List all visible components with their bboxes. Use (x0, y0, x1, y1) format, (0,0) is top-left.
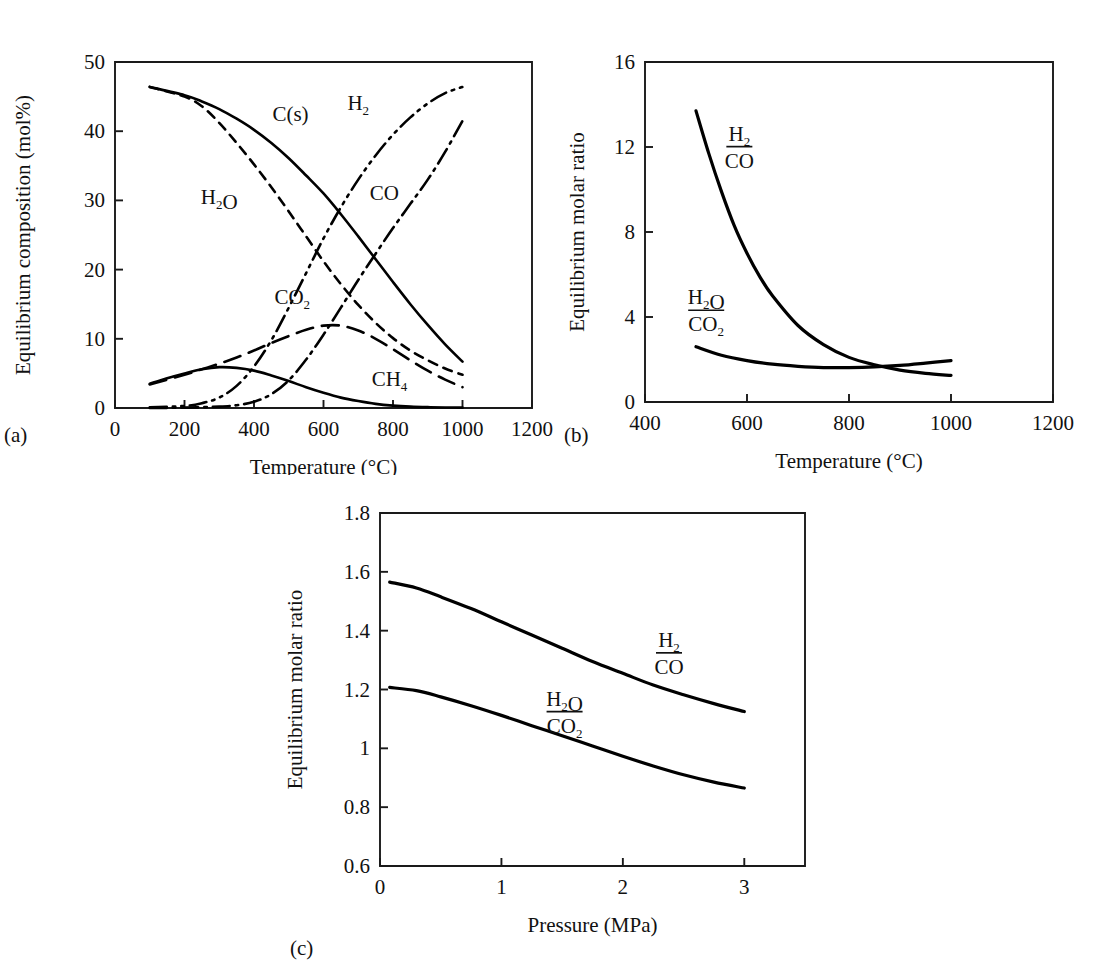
y-tick-label: 0 (95, 396, 106, 420)
y-tick-label: 1 (360, 736, 371, 760)
y-tick-label: 1.4 (344, 619, 371, 643)
y-tick-label: 1.2 (344, 678, 370, 702)
chart-a-canvas: 02004006008001000120001020304050Temperat… (0, 30, 570, 475)
ratio-denominator: CO (654, 655, 683, 679)
x-tick-label: 200 (169, 417, 201, 441)
chart-b-canvas: 400600800100012000481216Temperature (°C)… (560, 30, 1119, 475)
y-tick-label: 16 (614, 50, 635, 74)
ratio-label-h2-co: H2CO (725, 122, 754, 173)
x-axis-title: Temperature (°C) (775, 449, 922, 473)
y-tick-label: 1.6 (344, 560, 370, 584)
y-tick-label: 0.8 (344, 795, 370, 819)
curve-h2o (150, 87, 463, 375)
x-tick-label: 3 (739, 875, 750, 899)
series-label-h2: H2 (347, 91, 369, 118)
y-tick-label: 4 (625, 305, 636, 329)
ratio-numerator: H2 (729, 122, 751, 149)
axis-frame (115, 62, 532, 408)
curve-c-s- (150, 87, 463, 362)
figure-root: 02004006008001000120001020304050Temperat… (0, 0, 1119, 975)
y-tick-label: 10 (84, 327, 105, 351)
panel-tag: (b) (564, 423, 589, 447)
chart-panel-c: 01230.60.811.21.41.61.8Pressure (MPa)Equ… (190, 480, 910, 975)
ratio-label-h2o-co2: H2OCO2 (688, 285, 725, 339)
x-tick-label: 800 (377, 417, 409, 441)
x-tick-label: 600 (308, 417, 340, 441)
series-label-c-s-: C(s) (272, 102, 308, 126)
x-tick-label: 0 (110, 417, 121, 441)
x-tick-label: 0 (375, 875, 386, 899)
y-axis-title: Equilibrium molar ratio (283, 590, 307, 789)
series-label-co2: CO2 (274, 285, 310, 312)
y-tick-label: 0 (625, 390, 636, 414)
ratio-label-h2-co: H2CO (654, 628, 683, 679)
panel-tag: (a) (4, 423, 27, 447)
y-axis-title: Equilibrium molar ratio (565, 132, 589, 331)
x-tick-label: 1200 (1032, 411, 1074, 435)
axis-frame (380, 513, 805, 866)
curve-ch4 (150, 367, 463, 408)
y-tick-label: 30 (84, 188, 105, 212)
chart-panel-a: 02004006008001000120001020304050Temperat… (0, 30, 570, 475)
x-tick-label: 400 (238, 417, 270, 441)
ratio-denominator: CO (725, 149, 754, 173)
chart-panel-b: 400600800100012000481216Temperature (°C)… (560, 30, 1119, 475)
curve-co2 (150, 325, 463, 387)
x-tick-label: 1000 (930, 411, 972, 435)
x-tick-label: 2 (618, 875, 629, 899)
y-tick-label: 8 (625, 220, 636, 244)
y-tick-label: 0.6 (344, 854, 370, 878)
panel-tag: (c) (290, 936, 313, 960)
series-label-h2o: H2O (201, 185, 238, 214)
ratio-numerator: H2 (658, 628, 680, 655)
x-tick-label: 400 (629, 411, 661, 435)
curve-h2o-co2 (696, 347, 951, 368)
y-axis-title: Equilibrium composition (mol%) (11, 95, 35, 375)
y-tick-label: 20 (84, 258, 105, 282)
x-tick-label: 600 (731, 411, 763, 435)
series-label-co: CO (370, 181, 399, 205)
x-axis-title: Pressure (MPa) (527, 913, 657, 937)
x-tick-label: 1 (496, 875, 507, 899)
y-tick-label: 50 (84, 50, 105, 74)
x-tick-label: 800 (833, 411, 865, 435)
x-tick-label: 1200 (511, 417, 553, 441)
series-label-ch4: CH4 (372, 367, 408, 394)
chart-c-canvas: 01230.60.811.21.41.61.8Pressure (MPa)Equ… (190, 480, 910, 975)
y-tick-label: 1.8 (344, 501, 370, 525)
y-tick-label: 40 (84, 119, 105, 143)
ratio-denominator: CO2 (688, 312, 724, 339)
ratio-denominator: CO2 (547, 714, 583, 741)
y-tick-label: 12 (614, 135, 635, 159)
x-axis-title: Temperature (°C) (250, 455, 397, 475)
ratio-label-h2o-co2: H2OCO2 (546, 687, 583, 741)
x-tick-label: 1000 (442, 417, 484, 441)
